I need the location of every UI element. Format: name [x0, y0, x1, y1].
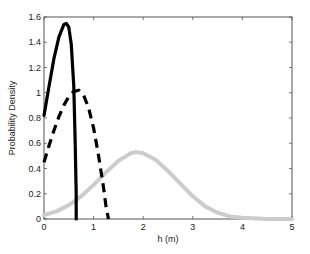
y-axis-label: Probability Density	[7, 80, 17, 155]
x-tick-label: 3	[190, 222, 195, 232]
y-tick-label: 0.8	[28, 113, 41, 123]
y-tick-label: 0.6	[28, 138, 41, 148]
x-tick-label: 4	[240, 222, 245, 232]
y-tick-label: 1	[36, 88, 41, 98]
probability-density-chart: 012345 00.20.40.60.811.21.41.6 h (m) Pro…	[0, 0, 310, 254]
x-tick-label: 2	[141, 222, 146, 232]
y-tick-label: 0	[36, 214, 41, 224]
y-tick-label: 1.2	[28, 63, 41, 73]
x-tick-label: 5	[289, 222, 294, 232]
y-tick-label: 0.2	[28, 189, 41, 199]
plot-area	[44, 17, 292, 219]
x-tick-labels: 012345	[41, 222, 294, 232]
x-tick-label: 0	[41, 222, 46, 232]
y-tick-label: 0.4	[28, 164, 41, 174]
y-tick-labels: 00.20.40.60.811.21.41.6	[28, 12, 41, 224]
x-axis-label: h (m)	[158, 234, 179, 244]
y-tick-label: 1.6	[28, 12, 41, 22]
x-tick-label: 1	[91, 222, 96, 232]
y-tick-label: 1.4	[28, 37, 41, 47]
